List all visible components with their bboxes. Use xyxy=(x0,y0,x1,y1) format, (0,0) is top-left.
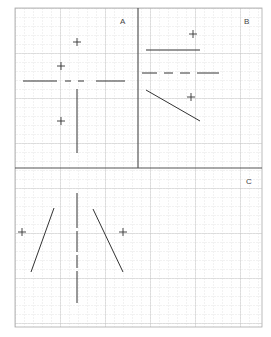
panel-label-b: B xyxy=(244,17,249,26)
panel-label-c: C xyxy=(246,177,252,186)
graph-paper-sheet: A B C xyxy=(0,0,271,337)
panel-label-a: A xyxy=(120,17,126,26)
